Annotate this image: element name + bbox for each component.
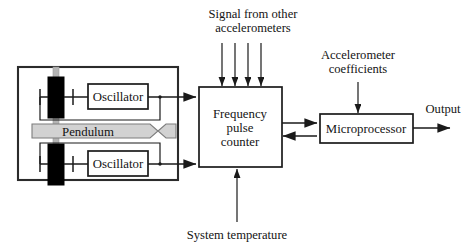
pendulum-label: Pendulum [62,125,114,139]
output-label: Output [426,102,461,116]
accelerometer-block-diagram: Oscillator Pendulum Oscillator Frequency… [0,0,465,247]
diagram-canvas: Oscillator Pendulum Oscillator Frequency… [0,0,465,247]
frequency-counter-line1: Frequency [213,107,268,121]
system-temperature-label: System temperature [187,228,288,242]
oscillator-top-label: Oscillator [93,90,144,104]
signal-other-line2: accelerometers [215,21,291,35]
frequency-counter-line2: pulse [226,121,253,135]
oscillator-bottom-label: Oscillator [93,157,144,171]
microprocessor-label: Microprocessor [326,122,407,136]
signal-other-line1: Signal from other [209,7,299,21]
quartz-resonator-bottom [48,144,64,185]
quartz-resonator-top [48,77,64,118]
frequency-counter-line3: counter [221,135,260,149]
coefficients-line1: Accelerometer [321,48,396,62]
coefficients-line2: coefficients [329,62,388,76]
